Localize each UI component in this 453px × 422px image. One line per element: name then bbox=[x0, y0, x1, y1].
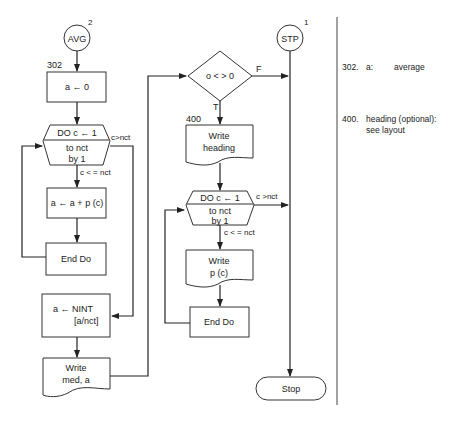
decision-label: o < > 0 bbox=[206, 71, 234, 81]
step-number-302: 302 bbox=[47, 60, 62, 70]
do-loop-right-line3: by 1 bbox=[211, 216, 228, 226]
avg-connector-label: AVG bbox=[68, 34, 86, 44]
note-400-key: heading (optional): bbox=[366, 114, 436, 124]
write-p-line2: p (c) bbox=[210, 268, 228, 278]
stp-connector-number: 1 bbox=[304, 18, 309, 27]
nint-box: a ← NINT [a/nct] bbox=[42, 294, 110, 337]
stp-connector: STP 1 bbox=[277, 18, 309, 51]
nint-box-line1: a ← NINT bbox=[53, 304, 94, 314]
end-do-left-text: End Do bbox=[61, 254, 91, 264]
do-loop-left-exit-label: c>nct bbox=[111, 133, 131, 142]
flowchart-canvas: AVG 2 302 a ← 0 DO c ← 1 to nct by 1 c>n… bbox=[0, 0, 453, 422]
do-loop-left-line1: DO c ← 1 bbox=[57, 128, 97, 138]
init-box-text: a ← 0 bbox=[65, 82, 89, 92]
do-loop-right-line1: DO c ← 1 bbox=[200, 193, 240, 203]
stp-connector-label: STP bbox=[281, 34, 299, 44]
note-400: 400. heading (optional): see layout bbox=[342, 114, 436, 135]
note-302: 302. a: average bbox=[342, 62, 425, 72]
decision-true-label: T bbox=[213, 102, 219, 112]
do-loop-left-line3: by 1 bbox=[68, 154, 85, 164]
do-loop-right-exit-label: c >nct bbox=[256, 192, 278, 201]
decision-false-label: F bbox=[256, 64, 262, 74]
note-302-desc: average bbox=[394, 62, 425, 72]
do-loop-left-line2: to nct bbox=[66, 143, 89, 153]
stop-terminal: Stop bbox=[256, 377, 326, 400]
write-heading-document: Write heading bbox=[186, 125, 253, 165]
end-do-left-box: End Do bbox=[46, 243, 106, 275]
note-302-key: a: bbox=[366, 62, 373, 72]
note-302-number: 302. bbox=[342, 62, 359, 72]
do-loop-left-continue-label: c < = nct bbox=[80, 168, 111, 177]
step-number-400: 400 bbox=[186, 114, 201, 124]
write-heading-line2: heading bbox=[203, 143, 235, 153]
avg-connector: AVG 2 bbox=[64, 18, 93, 51]
end-do-right-text: End Do bbox=[204, 317, 234, 327]
write-med-document: Write med, a bbox=[43, 358, 110, 397]
init-box: a ← 0 bbox=[47, 72, 106, 102]
note-400-desc: see layout bbox=[366, 125, 405, 135]
write-p-line1: Write bbox=[209, 256, 230, 266]
write-heading-line1: Write bbox=[209, 131, 230, 141]
loop-exit-arrow-left bbox=[110, 146, 133, 316]
do-loop-right-line2: to nct bbox=[209, 206, 232, 216]
do-loop-right-continue-label: c < = nct bbox=[224, 228, 255, 237]
end-do-right-box: End Do bbox=[190, 307, 249, 337]
write-med-line2: med, a bbox=[62, 375, 90, 385]
avg-connector-number: 2 bbox=[88, 18, 93, 27]
loop-back-arrow-left bbox=[22, 146, 46, 257]
decision-diamond: o < > 0 bbox=[188, 51, 252, 101]
nint-box-line2: [a/nct] bbox=[74, 316, 99, 326]
do-loop-left: DO c ← 1 to nct by 1 bbox=[43, 125, 110, 165]
sum-box: a ← a + p (c) bbox=[47, 188, 106, 218]
note-400-number: 400. bbox=[342, 114, 359, 124]
write-p-document: Write p (c) bbox=[186, 250, 253, 287]
sum-box-text: a ← a + p (c) bbox=[51, 198, 103, 208]
do-loop-right: DO c ← 1 to nct by 1 bbox=[186, 191, 254, 226]
connector-to-decision-arrow bbox=[110, 76, 186, 376]
stop-terminal-text: Stop bbox=[282, 384, 301, 394]
write-med-line1: Write bbox=[66, 363, 87, 373]
